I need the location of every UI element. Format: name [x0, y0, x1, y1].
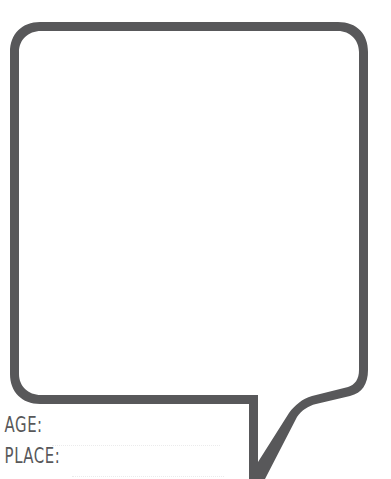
age-input[interactable] — [52, 444, 220, 446]
place-input[interactable] — [72, 475, 224, 477]
form-fields: AGE: PLACE: — [0, 418, 391, 479]
speech-bubble-svg — [0, 0, 391, 479]
age-label: AGE: — [0, 415, 43, 436]
place-label: PLACE: — [0, 446, 60, 467]
field-row-place: PLACE: — [0, 449, 391, 479]
speech-bubble-layer — [0, 0, 391, 479]
speech-bubble-outline — [10, 22, 368, 479]
worksheet-page: AGE: PLACE: — [0, 0, 391, 479]
